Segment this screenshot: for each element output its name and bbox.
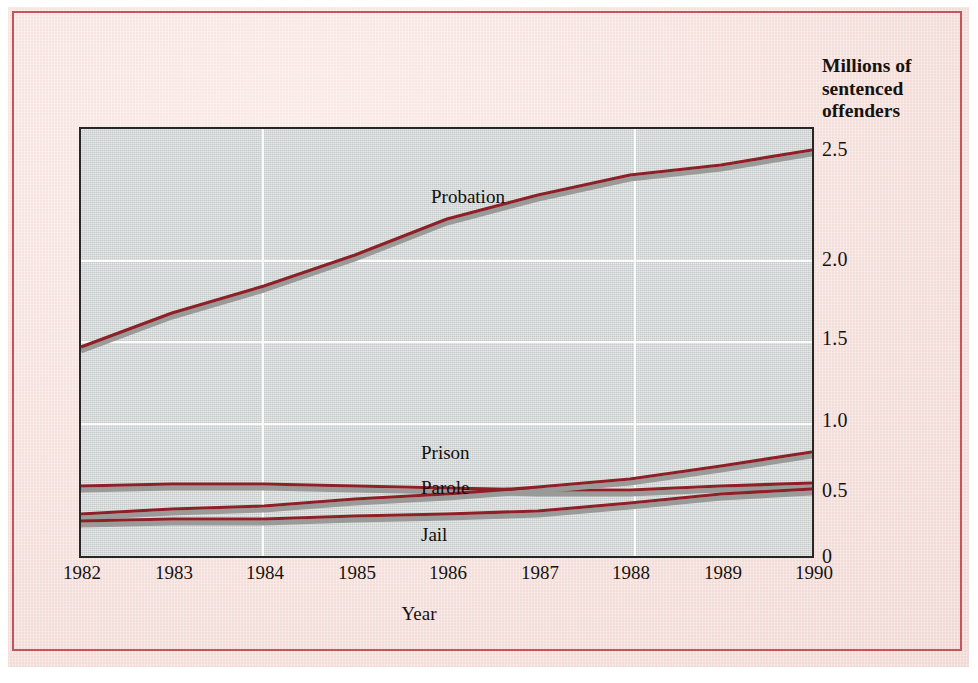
x-tick-1983: 1983 [138,562,210,584]
x-tick-1982: 1982 [46,562,118,584]
y-tick-1.5: 1.5 [822,327,848,350]
line-probation [81,150,812,347]
line-probation-shadow [81,154,812,351]
y-axis-label-line3: offenders [822,100,962,123]
y-tick-0.5: 0.5 [822,479,848,502]
series-label-probation: Probation [431,186,505,208]
series-label-prison: Prison [421,442,470,464]
line-chart-figure: Probation Prison Parole Jail 2.5 2.0 1.5… [0,0,978,683]
x-tick-1990: 1990 [778,562,850,584]
x-tick-1986: 1986 [412,562,484,584]
y-axis-label-line2: sentenced [822,78,962,101]
scanned-page: Probation Prison Parole Jail 2.5 2.0 1.5… [0,0,978,683]
y-tick-2.0: 2.0 [822,248,848,271]
series-label-jail: Jail [421,524,447,546]
x-tick-1984: 1984 [229,562,301,584]
x-tick-1987: 1987 [504,562,576,584]
x-tick-1985: 1985 [321,562,393,584]
y-tick-1.0: 1.0 [822,409,848,432]
y-tick-2.5: 2.5 [822,138,848,161]
x-tick-1989: 1989 [687,562,759,584]
series-label-parole: Parole [421,477,470,499]
y-axis-label: Millions of sentenced offenders [822,55,962,123]
x-tick-1988: 1988 [595,562,667,584]
y-axis-label-line1: Millions of [822,55,962,78]
x-axis-label: Year [0,603,838,625]
